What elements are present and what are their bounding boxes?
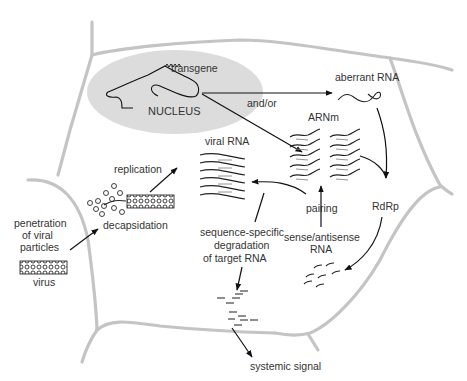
degradation-label-line1: sequence-specific bbox=[200, 226, 284, 238]
viral-rna-label: viral RNA bbox=[205, 135, 249, 147]
diagram-canvas: transgene NUCLEUS and/or aberrant RNA AR… bbox=[0, 0, 467, 381]
degradation-label-line3: of target RNA bbox=[203, 252, 267, 264]
line-viral-rna-to-degradation bbox=[255, 193, 264, 222]
sense-antisense-label-line1: sense/antisense bbox=[284, 231, 360, 243]
and-or-label: and/or bbox=[247, 97, 277, 109]
arnm-strands-icon bbox=[290, 129, 360, 180]
rdrp-label: RdRp bbox=[372, 200, 399, 212]
arrow-arnm-to-rdrp bbox=[360, 156, 386, 178]
arnm-label: ARNm bbox=[308, 111, 339, 123]
decapsidation-label: decapsidation bbox=[103, 219, 168, 231]
arrow-pairing-to-viral-rna bbox=[252, 182, 306, 194]
viral-rna-strands-icon bbox=[200, 154, 245, 199]
aberrant-rna-icon bbox=[338, 92, 381, 102]
transgene-label: transgene bbox=[171, 62, 218, 74]
virus-label: virus bbox=[33, 276, 55, 288]
viral-capsid-icon bbox=[127, 195, 174, 208]
virus-particle-icon bbox=[20, 261, 67, 274]
replication-label: replication bbox=[114, 163, 162, 175]
degraded-rna-fragments-icon bbox=[217, 291, 258, 325]
arrow-aberrant-to-rdrp bbox=[377, 108, 387, 178]
penetration-label-line3: particles bbox=[20, 241, 59, 253]
penetration-label-line2: of viral bbox=[22, 229, 53, 241]
pairing-label: pairing bbox=[306, 202, 338, 214]
nucleus: transgene NUCLEUS bbox=[87, 50, 263, 134]
aberrant-rna-label: aberrant RNA bbox=[335, 71, 399, 83]
penetration-label-line1: penetration bbox=[14, 217, 67, 229]
released-rna-icon bbox=[104, 200, 126, 205]
degradation-label-line2: degradation bbox=[214, 239, 270, 251]
sense-antisense-label-line2: RNA bbox=[310, 243, 332, 255]
systemic-signal-label: systemic signal bbox=[250, 360, 321, 372]
arrow-rdrp-to-sense-antisense bbox=[345, 217, 382, 270]
sense-antisense-fragments-icon bbox=[304, 263, 340, 287]
nucleus-label: NUCLEUS bbox=[148, 105, 201, 117]
arrow-to-fragments bbox=[237, 267, 242, 290]
arrow-to-decapsidation bbox=[70, 229, 98, 250]
